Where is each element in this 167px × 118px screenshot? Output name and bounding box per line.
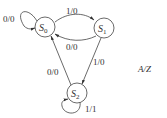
edge-label-s0-self: 0/0: [3, 14, 15, 24]
edge-s1-s0: [55, 34, 96, 40]
state-s2: S2: [67, 83, 87, 103]
state-s1: S1: [94, 18, 114, 38]
edge-label-s2-self: 1/1: [85, 104, 97, 114]
edge-label-s0-s1: 1/0: [66, 6, 78, 16]
edge-s0-self: [21, 12, 37, 29]
legend-label: A/Z: [137, 64, 152, 74]
edge-label-s1-s2: 1/0: [93, 57, 105, 67]
edge-label-s1-s0: 0/0: [66, 42, 78, 52]
state-s0: S0: [35, 17, 55, 37]
edge-label-s2-s0: 0/0: [47, 67, 59, 77]
state-diagram: 0/0 1/0 0/0 1/0 0/0 1/1 S0 S1 S2 A/Z: [0, 0, 167, 118]
